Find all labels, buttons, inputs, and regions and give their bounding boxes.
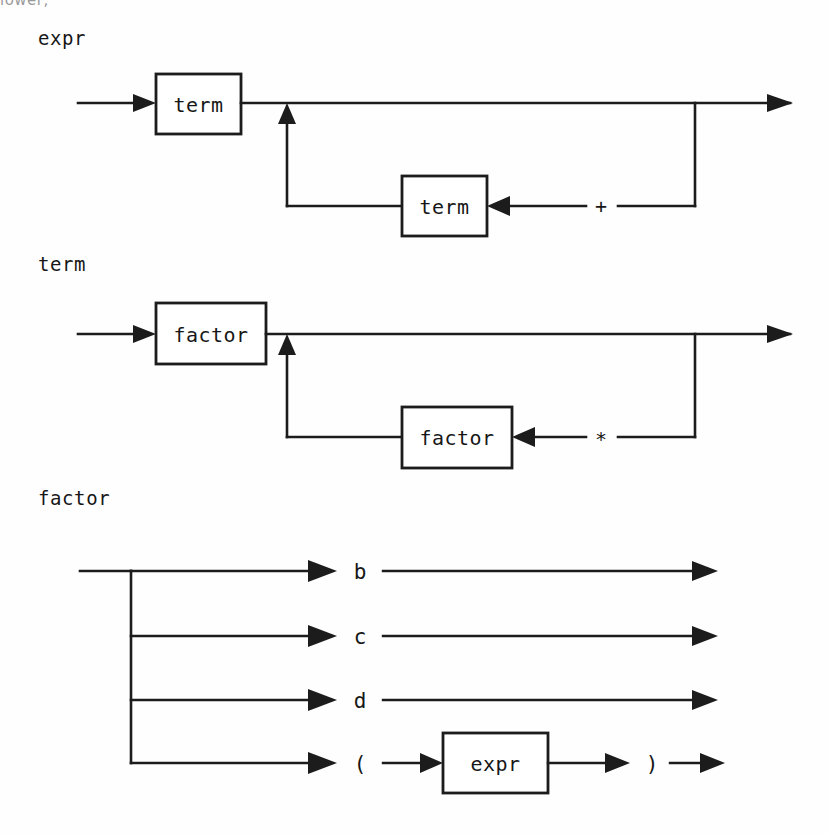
factor-exit-arrowhead-b — [692, 561, 718, 581]
factor-branch-arrowhead-b — [308, 560, 337, 582]
factor-exit-arrowhead-paren — [700, 753, 725, 773]
factor-terminal-label-d: d — [354, 689, 367, 713]
factor-expr-exit-arrowhead — [605, 753, 630, 773]
factor-terminal-label-c: c — [354, 625, 367, 649]
factor-open-paren-label: ( — [354, 752, 367, 776]
railroad-diagram-factor: b c d ( expr ) — [0, 0, 828, 834]
factor-terminal-label-b: b — [354, 560, 367, 584]
factor-branch-arrowhead-d — [308, 689, 337, 711]
factor-expr-box-label: expr — [470, 752, 520, 776]
factor-branch-arrowhead-paren — [308, 752, 337, 774]
factor-exit-arrowhead-c — [692, 626, 718, 646]
factor-close-paren-label: ) — [646, 752, 659, 776]
factor-expr-entry-arrowhead — [420, 753, 443, 773]
factor-branch-arrowhead-c — [308, 625, 337, 647]
diagram-page: lower, expr term term + term fa — [0, 0, 828, 834]
factor-exit-arrowhead-d — [692, 690, 718, 710]
